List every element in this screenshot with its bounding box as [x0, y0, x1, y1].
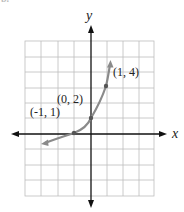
point-label-neg1-1: (-1, 1)	[30, 105, 60, 119]
point-neg1-1	[72, 131, 76, 135]
graph-figure: b. x	[0, 0, 184, 212]
x-axis-label: x	[171, 126, 179, 141]
figure-part-label: b.	[1, 0, 9, 4]
point-label-1-4: (1, 4)	[113, 65, 139, 79]
coordinate-plane: x y (-1, 1) (0, 2) (1, 4)	[0, 0, 184, 212]
y-axis-label: y	[84, 8, 93, 23]
x-axis-arrow-left-icon	[11, 131, 19, 137]
point-label-0-2: (0, 2)	[57, 92, 83, 106]
curve-arrow-left-icon	[41, 140, 49, 147]
point-1-4	[104, 84, 108, 88]
point-0-2	[89, 116, 93, 120]
y-axis-arrow-up-icon	[88, 25, 94, 33]
x-axis-arrow-right-icon	[159, 131, 167, 137]
y-axis-arrow-down-icon	[88, 200, 94, 208]
